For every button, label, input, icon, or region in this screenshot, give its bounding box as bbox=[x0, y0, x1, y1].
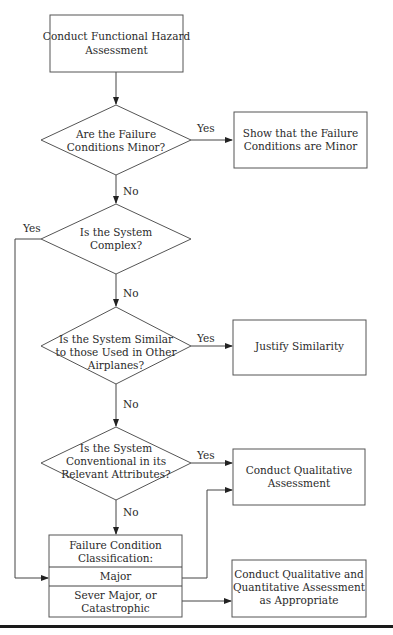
node-text: Is the System Similar bbox=[59, 333, 174, 345]
classification-row-severe: Catastrophic bbox=[81, 602, 150, 614]
edge-label-q-conventional-no: No bbox=[123, 506, 139, 518]
edge-label-q-complex-yes: Yes bbox=[22, 222, 41, 234]
node-failure-condition-classification: Failure Condition Classification: Major … bbox=[49, 535, 182, 617]
node-text: Airplanes? bbox=[87, 359, 145, 371]
node-conduct-fha: Conduct Functional Hazard Assessment bbox=[43, 15, 191, 72]
edge-label-q-minor-yes: Yes bbox=[196, 122, 215, 134]
node-text: Conduct Qualitative bbox=[246, 464, 353, 476]
classification-header: Classification: bbox=[78, 552, 153, 564]
node-text: to those Used in Other bbox=[56, 346, 178, 358]
edge-label-q-similar-yes: Yes bbox=[196, 332, 215, 344]
node-text: Relevant Attributes? bbox=[61, 468, 171, 480]
classification-header: Failure Condition bbox=[69, 539, 162, 551]
edge-label-q-minor-no: No bbox=[123, 185, 139, 197]
edge-label-q-similar-no: No bbox=[123, 398, 139, 410]
node-text: Quantitative Assessment bbox=[233, 581, 366, 593]
decision-failure-conditions-minor: Are the Failure Conditions Minor? bbox=[41, 105, 191, 175]
node-text: Conduct Qualitative and bbox=[234, 568, 364, 580]
edge-label-q-conventional-yes: Yes bbox=[196, 449, 215, 461]
node-text: Conditions are Minor bbox=[244, 140, 359, 152]
node-text: Conventional in its bbox=[66, 455, 166, 467]
flowchart: Yes No Yes No Yes No Yes No Conduct Func… bbox=[0, 0, 393, 635]
node-text: Conditions Minor? bbox=[67, 141, 166, 153]
node-text: Conduct Functional Hazard bbox=[43, 30, 191, 42]
classification-row-major: Major bbox=[100, 570, 133, 582]
bottom-rule bbox=[0, 625, 393, 628]
decision-system-conventional: Is the System Conventional in its Releva… bbox=[41, 427, 191, 500]
decision-system-similar: Is the System Similar to those Used in O… bbox=[41, 307, 191, 384]
edge-major-to-qualitative bbox=[182, 490, 232, 578]
node-text: Complex? bbox=[90, 239, 143, 251]
node-text: Is the System bbox=[80, 226, 152, 238]
node-text: Is the System bbox=[80, 442, 152, 454]
node-text: Show that the Failure bbox=[243, 127, 358, 139]
edge-label-q-complex-no: No bbox=[123, 287, 139, 299]
node-conduct-quantitative-assessment: Conduct Qualitative and Quantitative Ass… bbox=[232, 560, 366, 617]
node-show-conditions-minor: Show that the Failure Conditions are Min… bbox=[234, 112, 367, 168]
node-text: as Appropriate bbox=[259, 594, 338, 606]
node-text: Are the Failure bbox=[75, 128, 156, 140]
node-conduct-qualitative-assessment: Conduct Qualitative Assessment bbox=[233, 449, 365, 505]
decision-system-complex: Is the System Complex? bbox=[41, 204, 191, 274]
node-text: Justify Similarity bbox=[254, 340, 344, 352]
node-text: Assessment bbox=[267, 477, 331, 489]
classification-row-severe: Sever Major, or bbox=[74, 589, 157, 601]
node-justify-similarity: Justify Similarity bbox=[233, 320, 366, 375]
node-text: Assessment bbox=[84, 44, 148, 56]
edge-q-complex-yes bbox=[15, 239, 48, 578]
